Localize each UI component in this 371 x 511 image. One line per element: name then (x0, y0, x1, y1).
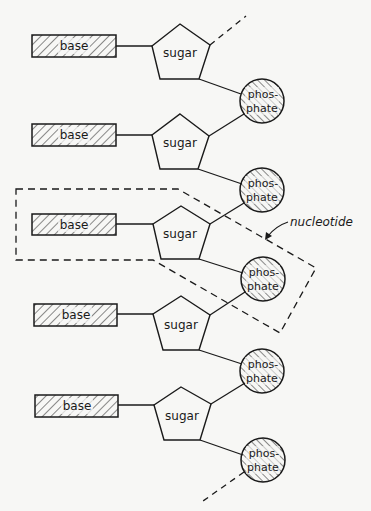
phosphate-circle: phos- phate (241, 257, 285, 301)
sugar-pentagon: sugar (153, 206, 210, 259)
nucleotide-unit-5: base sugar phos- phate (35, 383, 285, 482)
phosphate-sugar-bond (209, 114, 244, 136)
phosphate-label-line2: phate (247, 461, 279, 474)
base-block: base (32, 214, 116, 235)
phosphate-label-line2: phate (246, 372, 278, 385)
sugar-phosphate-bond (199, 350, 242, 364)
phosphate-label-line1: phos- (248, 177, 278, 190)
base-label: base (60, 39, 89, 53)
phosphate-label-line1: phos- (248, 88, 278, 101)
phosphate-label-line2: phate (247, 280, 279, 293)
phosphate-circle: phos- phate (240, 349, 284, 393)
sugar-pentagon: sugar (152, 24, 210, 79)
nucleotide-callout: nucleotide (265, 215, 353, 240)
base-label: base (60, 128, 89, 142)
sugar-label: sugar (163, 227, 197, 241)
phosphate-label-line1: phos- (248, 358, 278, 371)
phosphate-label-line1: phos- (249, 266, 279, 279)
base-block: base (32, 124, 116, 146)
nucleotide-chain-diagram: base sugar phos- phate base sugar (0, 0, 371, 511)
callout-arrow (268, 222, 288, 236)
phosphate-label-line1: phos- (249, 447, 279, 460)
phosphate-circle: phos- phate (240, 79, 284, 123)
sugar-phosphate-bond (199, 259, 243, 273)
sugar-label: sugar (163, 136, 197, 150)
base-block: base (32, 35, 116, 57)
phosphate-circle: phos- phate (241, 438, 285, 482)
phosphate-circle: phos- phate (240, 168, 284, 212)
phosphate-sugar-bond (211, 383, 245, 404)
nucleotide-unit-2: base sugar phos- phate (32, 114, 284, 212)
base-block: base (34, 304, 117, 326)
sugar-pentagon: sugar (154, 387, 211, 440)
nucleotide-unit-1: base sugar phos- phate (32, 24, 284, 123)
base-label: base (63, 399, 92, 413)
nucleotide-unit-4: base sugar phos- phate (34, 292, 284, 393)
base-label: base (60, 218, 89, 232)
sugar-label: sugar (165, 409, 199, 423)
base-label: base (62, 308, 91, 322)
sugar-phosphate-bond (200, 440, 243, 455)
chain-continuation-bottom (203, 472, 244, 501)
chain-continuation-top (210, 16, 246, 45)
sugar-label: sugar (163, 46, 197, 60)
sugar-phosphate-bond (199, 79, 241, 94)
sugar-pentagon: sugar (152, 114, 209, 169)
nucleotide-unit-3: base sugar phos- phate (32, 203, 285, 301)
sugar-label: sugar (164, 318, 198, 332)
phosphate-label-line2: phate (246, 191, 278, 204)
phosphate-sugar-bond (210, 203, 244, 224)
nucleotide-label: nucleotide (290, 215, 353, 229)
sugar-pentagon: sugar (153, 296, 210, 350)
base-block: base (35, 395, 118, 417)
sugar-phosphate-bond (198, 169, 242, 184)
phosphate-label-line2: phate (246, 102, 278, 115)
